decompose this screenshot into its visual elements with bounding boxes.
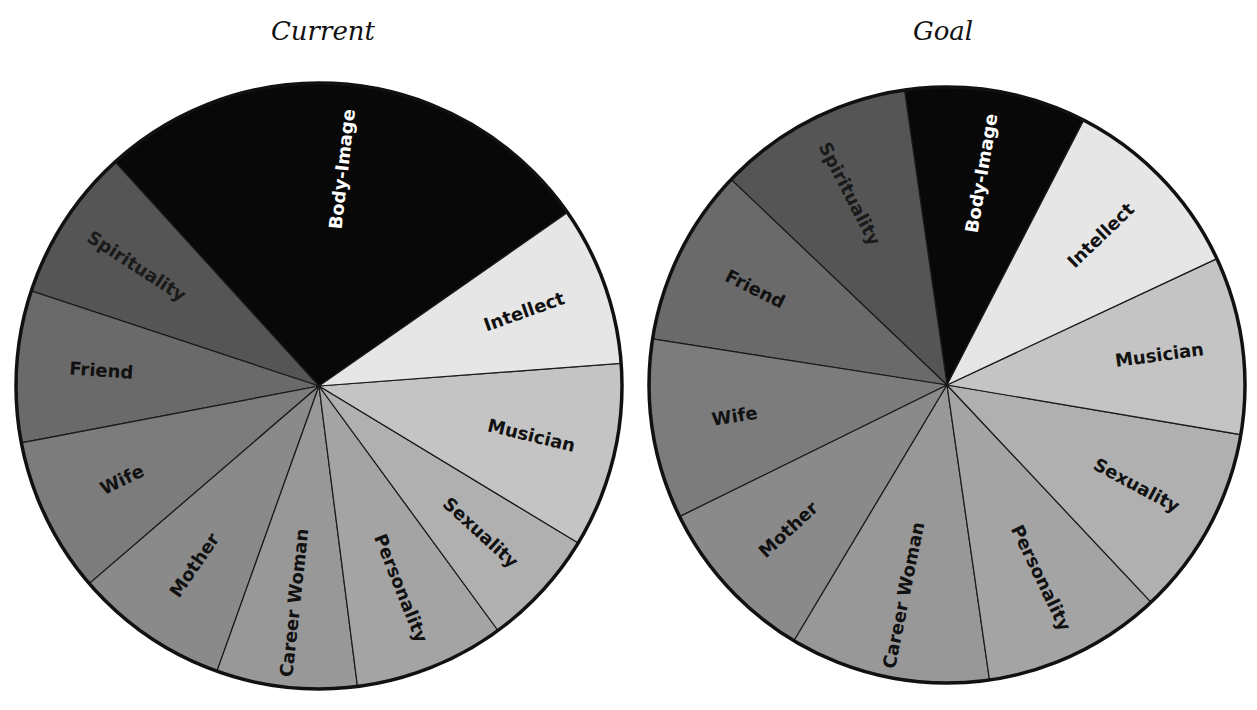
current-pie-chart: Body-ImageSpiritualityFriendWifeMotherCa… bbox=[16, 83, 622, 689]
slice-label-friend: Friend bbox=[69, 358, 134, 383]
goal-pie-chart: Body-ImageSpiritualityFriendWifeMotherCa… bbox=[649, 87, 1245, 683]
pie-charts: Body-ImageSpiritualityFriendWifeMotherCa… bbox=[0, 0, 1257, 710]
